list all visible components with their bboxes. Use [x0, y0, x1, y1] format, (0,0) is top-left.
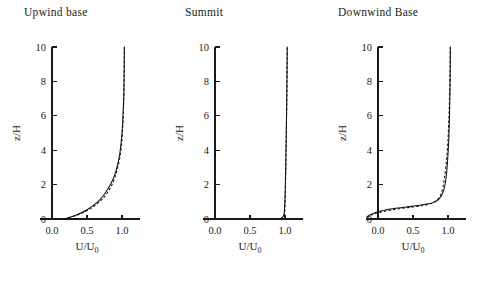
- y-tick-label: 6: [204, 110, 209, 121]
- y-axis-label: z/H: [336, 125, 348, 141]
- x-tick-label: 1.0: [441, 225, 454, 236]
- y-tick-label: 6: [41, 110, 46, 121]
- x-tick-label: 1.0: [115, 225, 128, 236]
- x-axis-label: U/U0: [402, 240, 425, 255]
- profile-curve-dashed: [367, 47, 451, 217]
- x-tick-label: 0.5: [80, 225, 93, 236]
- x-axis-label: U/U0: [239, 240, 262, 255]
- plot-area-downwind: 02468100.00.51.0U/U0z/H: [326, 0, 489, 286]
- y-tick-label: 4: [41, 145, 47, 156]
- profile-curve-dashed: [280, 47, 287, 219]
- profile-curve-solid: [367, 47, 451, 217]
- y-tick-label: 2: [41, 179, 46, 190]
- y-tick-label: 0: [41, 214, 46, 225]
- panel-summit: Summit 02468100.00.51.0U/U0z/H: [163, 0, 326, 286]
- panel-downwind-base: Downwind Base 02468100.00.51.0U/U0z/H: [326, 0, 489, 286]
- y-tick-label: 8: [367, 76, 372, 87]
- x-tick-label: 0.5: [406, 225, 419, 236]
- x-tick-label: 1.0: [278, 225, 291, 236]
- y-tick-label: 0: [204, 214, 209, 225]
- y-tick-label: 4: [204, 145, 210, 156]
- y-tick-label: 2: [204, 179, 209, 190]
- y-tick-label: 10: [362, 42, 373, 53]
- y-tick-label: 8: [204, 76, 209, 87]
- wind-profile-figure: Upwind base 02468100.00.51.0U/U0z/H Summ…: [0, 0, 489, 286]
- y-tick-label: 2: [367, 179, 372, 190]
- plot-area-summit: 02468100.00.51.0U/U0z/H: [163, 0, 326, 286]
- panel-upwind-base: Upwind base 02468100.00.51.0U/U0z/H: [0, 0, 163, 286]
- x-tick-label: 0.0: [45, 225, 58, 236]
- y-tick-label: 10: [199, 42, 210, 53]
- y-tick-label: 6: [367, 110, 372, 121]
- y-tick-label: 8: [41, 76, 46, 87]
- profile-curve-dashed: [64, 47, 124, 219]
- x-tick-label: 0.5: [243, 225, 256, 236]
- x-tick-label: 0.0: [371, 225, 384, 236]
- x-axis-label: U/U0: [76, 240, 99, 255]
- y-axis-label: z/H: [173, 125, 185, 141]
- x-tick-label: 0.0: [208, 225, 221, 236]
- y-axis-label: z/H: [10, 125, 22, 141]
- profile-curve-solid: [64, 47, 124, 219]
- y-tick-label: 4: [367, 145, 373, 156]
- plot-area-upwind: 02468100.00.51.0U/U0z/H: [0, 0, 163, 286]
- y-tick-label: 10: [36, 42, 47, 53]
